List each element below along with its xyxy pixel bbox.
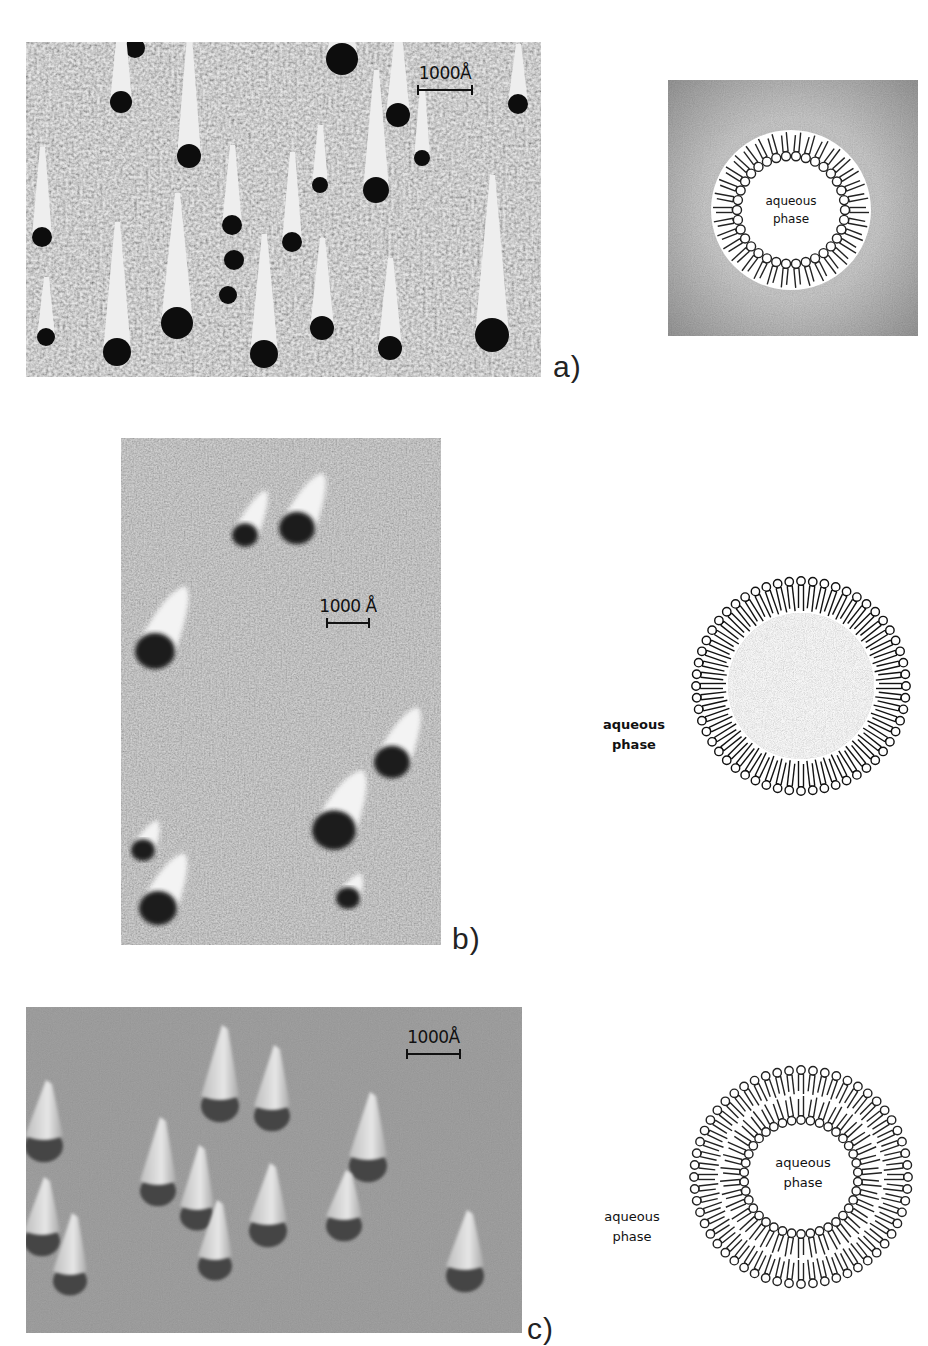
schematic-reversed-micelle (690, 575, 912, 797)
scale-bar-line-b (326, 618, 370, 628)
scale-bar-c: 1000Å (403, 1028, 464, 1059)
panel-label-a: a) (553, 350, 582, 384)
outer-aqueous-phase-label-c: aqueous phase (596, 1207, 668, 1247)
scale-bar-line-c (406, 1049, 461, 1059)
panel-label-b: b) (452, 922, 481, 956)
scale-bar-line-a (417, 85, 473, 95)
scale-bar-a: 1000Å (414, 64, 476, 95)
scale-bar-b: 1000 Å (316, 597, 380, 628)
micrograph-b (121, 438, 441, 945)
scale-label-c: 1000Å (403, 1028, 464, 1046)
scale-label-a: 1000Å (414, 64, 476, 82)
inner-aqueous-phase-label-a: aqueous phase (753, 192, 829, 228)
panel-label-c: c) (527, 1312, 554, 1346)
scale-label-b: 1000 Å (316, 597, 380, 615)
inner-aqueous-phase-label-c: aqueous phase (765, 1153, 841, 1193)
outer-aqueous-phase-label-b: aqueous phase (598, 715, 670, 755)
